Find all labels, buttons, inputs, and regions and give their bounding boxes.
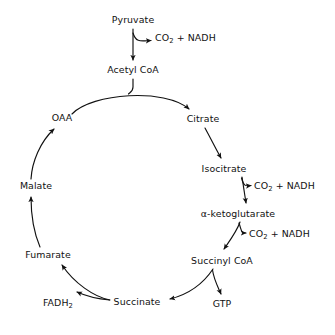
arrow-alpha-ketoglutarate-to-succinyl-coa (224, 222, 240, 249)
diagram-arrows-layer (0, 0, 335, 335)
node-label-isocitrate: Isocitrate (202, 163, 247, 174)
node-label-citrate: Citrate (187, 113, 220, 124)
arrow-acetyl-coa-into-cycle (129, 79, 134, 94)
node-label-succinate: Succinate (114, 296, 161, 307)
arrow-fumarate-to-malate (31, 197, 40, 247)
node-label-malate: Malate (20, 180, 52, 191)
node-label-co2-nadh-3: CO2 + NADH (249, 228, 310, 241)
arrow-pyruvate-to-co2-nadh (133, 33, 151, 41)
node-label-alpha-ketoglutarate: α-ketoglutarate (201, 208, 275, 219)
node-label-pyruvate: Pyruvate (112, 14, 155, 25)
node-label-co2-nadh-1: CO2 + NADH (155, 32, 216, 45)
arrow-malate-to-oaa (31, 129, 54, 179)
node-label-oaa: OAA (52, 112, 73, 123)
node-label-fadh2: FADH2 (43, 297, 73, 310)
krebs-cycle-diagram: Pyruvate CO2 + NADH Acetyl CoA OAA Citra… (0, 0, 335, 335)
arrow-oaa-to-citrate (72, 96, 189, 114)
node-label-fumarate: Fumarate (25, 249, 71, 260)
arrow-succinyl-coa-to-gtp (213, 270, 222, 294)
node-label-succinyl-coa: Succinyl CoA (191, 255, 253, 266)
arrow-succinyl-coa-to-succinate (170, 269, 213, 299)
arrow-succinate-to-fumarate (62, 265, 110, 300)
node-label-gtp: GTP (213, 298, 232, 309)
arrow-citrate-to-isocitrate (205, 128, 221, 158)
node-label-co2-nadh-2: CO2 + NADH (254, 180, 315, 193)
arrow-alpha-ketoglutarate-to-co2-nadh (239, 223, 246, 233)
node-label-acetyl-coa: Acetyl CoA (107, 64, 159, 75)
